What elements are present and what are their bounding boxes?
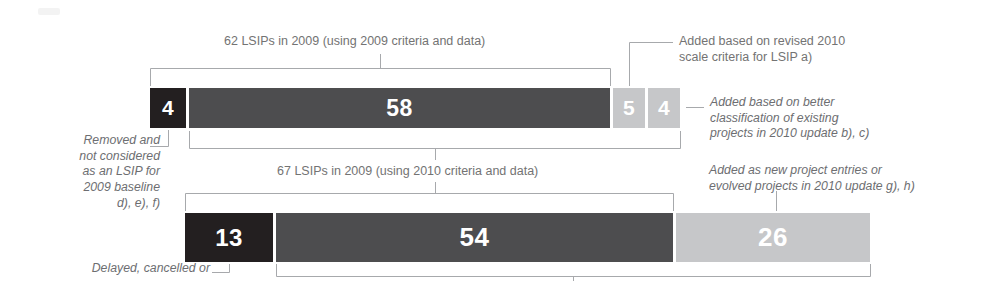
bracket-67-lsips	[190, 131, 681, 149]
bracket-62-lsips	[151, 69, 611, 87]
bracket-bottom-top-span	[186, 194, 674, 212]
bracket-bottom-lower-span	[277, 264, 871, 277]
elbow-added-revised-scale	[630, 43, 674, 87]
connector-lines	[0, 0, 1002, 281]
elbow-removed-not-considered	[150, 130, 169, 147]
elbow-delayed-cancelled	[212, 264, 230, 273]
diagram-canvas: 62 LSIPs in 2009 (using 2009 criteria an…	[0, 0, 1002, 281]
